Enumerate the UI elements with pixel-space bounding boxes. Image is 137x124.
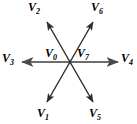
vector-label-v6-text: V [91, 0, 99, 14]
vector-label-v0: V0 [45, 47, 57, 62]
space-vector-diagram: V2 V6 V3 V4 V0 V7 V1 V5 [0, 0, 137, 124]
vector-label-v7: V7 [77, 47, 89, 62]
vector-label-v1-subscript: 1 [45, 113, 49, 122]
vector-label-v4: V4 [121, 52, 133, 67]
vector-label-v6-subscript: 6 [99, 7, 103, 16]
vector-star-svg [0, 0, 137, 124]
vector-label-v1: V1 [37, 107, 49, 122]
vector-label-v0-subscript: 0 [53, 53, 57, 62]
vector-label-v3-subscript: 3 [10, 58, 14, 67]
vector-label-v7-text: V [77, 46, 85, 60]
vector-label-v2: V2 [28, 1, 40, 16]
vector-label-v6: V6 [91, 1, 103, 16]
vector-label-v2-text: V [28, 0, 36, 14]
vector-label-v3: V3 [2, 52, 14, 67]
vector-label-v5: V5 [89, 107, 101, 122]
vector-label-v5-subscript: 5 [97, 113, 101, 122]
vector-line-v1 [47, 62, 70, 102]
vector-label-v5-text: V [89, 106, 97, 120]
vector-label-v3-text: V [2, 51, 10, 65]
vector-label-v4-subscript: 4 [129, 58, 133, 67]
vector-line-v5 [70, 62, 93, 102]
vector-label-v2-subscript: 2 [36, 7, 40, 16]
vector-label-v0-text: V [45, 46, 53, 60]
vector-label-v4-text: V [121, 51, 129, 65]
vector-label-v1-text: V [37, 106, 45, 120]
vector-label-v7-subscript: 7 [85, 53, 89, 62]
